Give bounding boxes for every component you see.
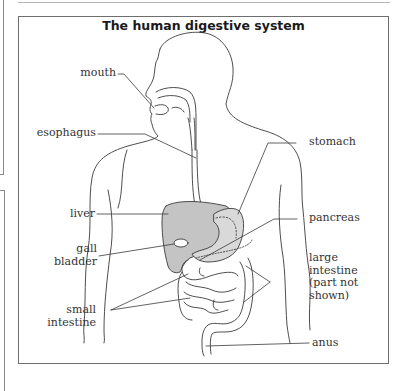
- label-gall-bladder-line1: gall: [76, 242, 97, 255]
- body-outline: [84, 32, 310, 343]
- anus-leader: [206, 343, 309, 346]
- label-gall-bladder-line2: bladder: [54, 255, 97, 268]
- mouth-and-throat: [155, 88, 196, 151]
- label-stomach: stomach: [309, 136, 356, 149]
- label-anus: anus: [312, 337, 338, 350]
- label-liver: liver: [40, 208, 95, 221]
- label-large-intestine-line4: shown): [309, 289, 349, 302]
- label-small-intestine-line2: intestine: [47, 316, 96, 329]
- gall-bladder-leader: [99, 244, 174, 256]
- label-pancreas: pancreas: [309, 212, 360, 225]
- label-large-intestine-line3: (part not: [309, 276, 358, 289]
- label-large-intestine-line1: large: [309, 251, 338, 264]
- label-small-intestine: small intestine: [40, 304, 96, 329]
- mouth-leader: [118, 74, 154, 108]
- large-intestine-leader: [244, 266, 270, 302]
- stomach-leader: [238, 143, 296, 214]
- label-large-intestine-line2: intestine: [309, 264, 358, 277]
- label-large-intestine: large intestine (part not shown): [309, 252, 358, 302]
- esophagus-leader: [98, 134, 196, 158]
- small-intestine: [178, 260, 238, 320]
- label-small-intestine-line1: small: [66, 303, 96, 316]
- gall-bladder: [174, 239, 188, 247]
- label-mouth: mouth: [58, 67, 116, 80]
- label-gall-bladder: gall bladder: [40, 243, 97, 268]
- label-esophagus: esophagus: [30, 127, 96, 140]
